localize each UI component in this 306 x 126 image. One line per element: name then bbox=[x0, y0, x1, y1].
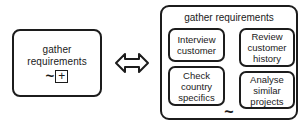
double-headed-arrow-icon bbox=[114, 49, 150, 77]
expanded-adhoc-marker: ~ bbox=[162, 104, 296, 115]
collapsed-plus-icon[interactable]: + bbox=[55, 70, 68, 83]
task-check-country-specifics[interactable]: Check country specifics bbox=[168, 66, 225, 106]
diagram-canvas: gather requirements ~ + gather requireme… bbox=[0, 0, 306, 126]
task-interview-customer[interactable]: Interview customer bbox=[168, 28, 225, 62]
collapsed-subprocess-node[interactable]: gather requirements ~ + bbox=[12, 29, 102, 97]
expanded-subprocess-node[interactable]: gather requirements Interview customer R… bbox=[160, 5, 298, 120]
adhoc-tilde-icon: ~ bbox=[224, 107, 233, 117]
adhoc-tilde-icon: ~ bbox=[46, 71, 55, 80]
expanded-subprocess-title: gather requirements bbox=[162, 12, 296, 24]
collapsed-subprocess-label: gather requirements bbox=[27, 44, 87, 68]
task-grid: Interview customer Review customer histo… bbox=[162, 26, 296, 118]
collapsed-subprocess-markers: ~ + bbox=[46, 70, 69, 83]
task-review-customer-history[interactable]: Review customer history bbox=[239, 28, 295, 67]
